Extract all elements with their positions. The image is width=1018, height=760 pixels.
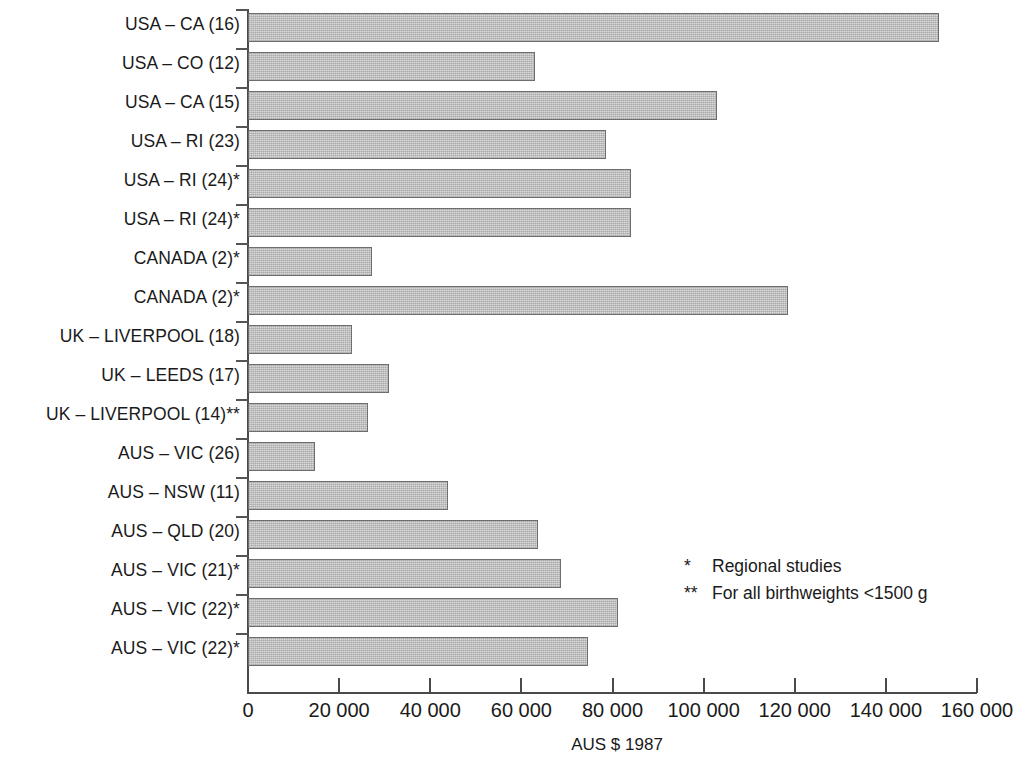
y-axis-tick [236, 360, 249, 362]
x-axis-tick [247, 678, 249, 693]
x-axis-title: AUS $ 1987 [0, 735, 1018, 755]
bar [248, 403, 368, 432]
y-axis-tick [236, 282, 249, 284]
bar [248, 364, 389, 393]
category-label: USA – CO (12) [122, 52, 240, 74]
bar-row: UK – LIVERPOOL (18) [0, 321, 1018, 360]
category-label: CANADA (2)* [134, 247, 240, 269]
footnote-legend: * Regional studies ** For all birthweigh… [684, 553, 927, 607]
bar-row: AUS – QLD (20) [0, 516, 1018, 555]
legend-label-regional: Regional studies [712, 553, 841, 580]
y-axis-tick [236, 555, 249, 557]
y-axis-tick [236, 399, 249, 401]
bar [248, 286, 788, 315]
bar [248, 13, 939, 42]
bar-row: AUS – VIC (22)* [0, 633, 1018, 672]
x-axis-tick [885, 678, 887, 693]
category-label: AUS – VIC (22)* [111, 598, 240, 620]
y-axis-tick [236, 87, 249, 89]
legend-label-birthweight: For all birthweights <1500 g [712, 580, 927, 607]
bar-row: USA – RI (24)* [0, 165, 1018, 204]
bar [248, 442, 315, 471]
x-axis-tick-label: 20 000 [309, 698, 370, 722]
category-label: AUS – VIC (22)* [111, 637, 240, 659]
x-axis-tick-label: 0 [242, 698, 253, 722]
bar-chart: USA – CA (16)USA – CO (12)USA – CA (15)U… [0, 0, 1018, 760]
category-label: UK – LEEDS (17) [101, 364, 240, 386]
category-label: UK – LIVERPOOL (14)** [46, 403, 240, 425]
bar [248, 52, 535, 81]
category-label: UK – LIVERPOOL (18) [60, 325, 240, 347]
y-axis-tick [236, 321, 249, 323]
y-axis-tick [236, 633, 249, 635]
category-label: USA – RI (24)* [124, 208, 240, 230]
x-axis-tick [338, 678, 340, 693]
x-axis-tick [794, 678, 796, 693]
category-label: USA – RI (23) [131, 130, 240, 152]
y-axis-tick [236, 438, 249, 440]
y-axis-tick [236, 165, 249, 167]
bar [248, 169, 631, 198]
bar-row: CANADA (2)* [0, 243, 1018, 282]
y-axis-tick [236, 126, 249, 128]
category-label: AUS – QLD (20) [111, 520, 240, 542]
category-label: CANADA (2)* [134, 286, 240, 308]
bar [248, 247, 372, 276]
category-label: USA – CA (15) [125, 91, 240, 113]
y-axis-tick [236, 243, 249, 245]
category-label: USA – CA (16) [125, 13, 240, 35]
bar [248, 559, 561, 588]
x-axis-tick [612, 678, 614, 693]
bar-row: AUS – VIC (26) [0, 438, 1018, 477]
y-axis-tick [236, 594, 249, 596]
y-axis-tick [236, 516, 249, 518]
bar-row: USA – CO (12) [0, 48, 1018, 87]
bar [248, 598, 618, 627]
bar-row: AUS – NSW (11) [0, 477, 1018, 516]
y-axis-tick [236, 477, 249, 479]
x-axis-tick-label: 120 000 [759, 698, 831, 722]
category-label: AUS – VIC (26) [118, 442, 240, 464]
bar [248, 520, 538, 549]
category-label: AUS – VIC (21)* [111, 559, 240, 581]
bar-row: CANADA (2)* [0, 282, 1018, 321]
x-axis-tick [429, 678, 431, 693]
double-asterisk-icon: ** [684, 580, 712, 607]
legend-item-regional: * Regional studies [684, 553, 927, 580]
bar-row: USA – CA (15) [0, 87, 1018, 126]
y-axis-tick [236, 204, 249, 206]
x-axis-tick-label: 40 000 [400, 698, 461, 722]
x-axis-tick [976, 678, 978, 693]
bar [248, 325, 352, 354]
y-axis-tick [236, 48, 249, 50]
bar-row: UK – LEEDS (17) [0, 360, 1018, 399]
bar [248, 481, 448, 510]
category-label: USA – RI (24)* [124, 169, 240, 191]
plot-area: USA – CA (16)USA – CO (12)USA – CA (15)U… [0, 0, 1018, 760]
x-axis-title-text: AUS $ 1987 [571, 735, 663, 755]
bar [248, 637, 588, 666]
x-axis-tick-label: 160 000 [941, 698, 1013, 722]
x-axis-tick-label: 80 000 [582, 698, 643, 722]
bar-row: UK – LIVERPOOL (14)** [0, 399, 1018, 438]
bar-row: USA – RI (23) [0, 126, 1018, 165]
bar-row: USA – CA (16) [0, 9, 1018, 48]
legend-item-birthweight: ** For all birthweights <1500 g [684, 580, 927, 607]
x-axis-tick-label: 60 000 [491, 698, 552, 722]
bar-row: USA – RI (24)* [0, 204, 1018, 243]
category-label: AUS – NSW (11) [108, 481, 240, 503]
bar [248, 130, 606, 159]
x-axis-tick [703, 678, 705, 693]
bar [248, 91, 717, 120]
x-axis-tick-label: 140 000 [850, 698, 922, 722]
x-axis-tick [520, 678, 522, 693]
x-axis-tick-label: 100 000 [667, 698, 739, 722]
asterisk-icon: * [684, 553, 712, 580]
y-axis-tick [236, 9, 249, 11]
bar [248, 208, 631, 237]
